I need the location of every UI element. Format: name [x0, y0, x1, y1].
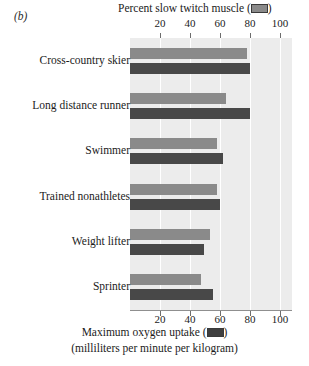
bar-slow-twitch [130, 184, 217, 195]
category-label: Sprinter [4, 280, 130, 292]
bottom-axis-title-close: ) [224, 326, 228, 338]
bar-oxygen-uptake [130, 153, 223, 164]
top-axis-title: Percent slow twitch muscle () [118, 2, 272, 14]
bar-slow-twitch [130, 229, 210, 240]
plot-area [130, 38, 292, 310]
gridline-40 [190, 38, 191, 310]
top-axis-title-close: ) [268, 2, 272, 14]
bar-slow-twitch [130, 138, 217, 149]
tick-label-bottom-40: 40 [185, 313, 196, 325]
tick-label-bottom-60: 60 [215, 313, 226, 325]
gridline-100 [280, 38, 281, 310]
tick-label-top-100: 100 [272, 17, 289, 29]
bar-oxygen-uptake [130, 244, 204, 255]
category-label: Weight lifter [4, 235, 130, 247]
bottom-tick-labels: 20406080100 [130, 313, 292, 327]
category-label: Cross-country skier [4, 54, 130, 66]
bar-oxygen-uptake [130, 289, 213, 300]
tick-label-top-40: 40 [185, 17, 196, 29]
gridline-20 [160, 38, 161, 310]
bar-oxygen-uptake [130, 108, 250, 119]
category-label: Long distance runner [4, 99, 130, 111]
top-axis-title-text: Percent slow twitch muscle ( [118, 2, 251, 14]
bottom-axis-title-text: Maximum oxygen uptake ( [82, 326, 207, 338]
category-label: Trained nonathletes [4, 190, 130, 202]
bar-slow-twitch [130, 48, 247, 59]
tick-label-bottom-20: 20 [155, 313, 166, 325]
oxygen-uptake-legend-swatch-icon [207, 328, 224, 337]
bottom-axis-title: Maximum oxygen uptake () [0, 326, 309, 338]
tick-label-bottom-80: 80 [245, 313, 256, 325]
bar-oxygen-uptake [130, 199, 220, 210]
bar-slow-twitch [130, 274, 201, 285]
category-label: Swimmer [4, 144, 130, 156]
bottom-axis-subtitle: (milliliters per minute per kilogram) [0, 342, 309, 354]
tick-label-top-60: 60 [215, 17, 226, 29]
tick-label-bottom-100: 100 [272, 313, 289, 325]
figure-panel-b: (b) Percent slow twitch muscle () 204060… [0, 0, 309, 366]
slow-twitch-legend-swatch-icon [251, 4, 268, 13]
gridline-60 [220, 38, 221, 310]
bar-oxygen-uptake [130, 63, 250, 74]
gridline-80 [250, 38, 251, 310]
tick-label-top-80: 80 [245, 17, 256, 29]
category-labels: Cross-country skierLong distance runnerS… [0, 0, 130, 366]
bar-slow-twitch [130, 93, 226, 104]
tick-label-top-20: 20 [155, 17, 166, 29]
top-tick-labels: 20406080100 [130, 17, 292, 31]
